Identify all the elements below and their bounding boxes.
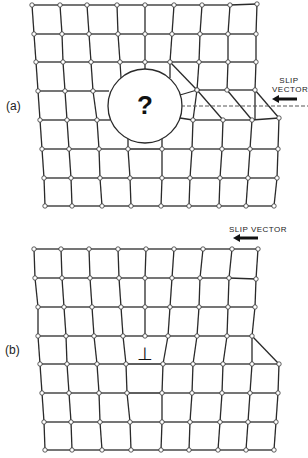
lattice-atom (63, 89, 67, 93)
lattice-bond (40, 120, 42, 149)
slip-label-line-1: SLIP (272, 76, 306, 85)
lattice-bond (219, 178, 220, 206)
lattice-atom (272, 204, 276, 208)
edge-dislocation-symbol: ⊥ (137, 343, 153, 365)
lattice-atom (30, 3, 34, 7)
lattice-atom (195, 334, 199, 338)
lattice-bond (121, 307, 123, 336)
lattice-bond (222, 364, 223, 393)
lattice-bond (227, 90, 252, 120)
lattice-atom (95, 118, 99, 122)
lattice-bond (227, 62, 228, 90)
lattice-atom (226, 60, 230, 64)
lattice-bond (255, 90, 279, 118)
lattice-bond (168, 307, 170, 336)
lattice-atom (32, 32, 36, 36)
lattice-atom (128, 420, 132, 424)
lattice-bond (276, 393, 278, 422)
lattice-bond (145, 249, 146, 278)
lattice-atom (67, 391, 71, 395)
lattice-atom (118, 60, 122, 64)
lattice-atom (33, 276, 37, 280)
lattice-atom (255, 2, 259, 6)
lattice-atom (38, 118, 42, 122)
lattice-atom (117, 276, 121, 280)
lattice-atom (272, 448, 276, 452)
lattice-bond (197, 90, 223, 120)
lattice-atom (218, 420, 222, 424)
lattice-atom (225, 334, 229, 338)
lattice-bond (40, 364, 42, 393)
lattice-atom (227, 276, 231, 280)
lattice-atom (172, 247, 176, 251)
lattice-bond (130, 178, 131, 206)
lattice-atom (36, 305, 40, 309)
lattice-bond (97, 364, 99, 393)
lattice-atom (274, 420, 278, 424)
lattice-bond (71, 422, 72, 450)
lattice-bond (252, 307, 255, 336)
lattice-bond (218, 422, 220, 450)
lattice-bond (61, 249, 62, 278)
lattice-atom (187, 204, 191, 208)
lattice-atom (166, 334, 170, 338)
lattice-bond (256, 4, 257, 34)
lattice-bond (274, 422, 276, 450)
lattice-atom (129, 448, 133, 452)
lattice-bond (62, 278, 64, 307)
lattice-atom (97, 391, 101, 395)
lattice-atom (60, 32, 64, 36)
lattice-bond (34, 34, 36, 62)
lattice-atom (250, 334, 254, 338)
panel-a-slip-vector-label: SLIP VECTOR (272, 76, 306, 94)
lattice-atom (221, 118, 225, 122)
lattice-bond (172, 249, 174, 278)
lattice-bond (118, 34, 120, 62)
lattice-atom (197, 60, 201, 64)
lattice-atom (65, 118, 69, 122)
panel-a-lattice (30, 2, 308, 208)
lattice-atom (190, 391, 194, 395)
lattice-atom (254, 60, 258, 64)
lattice-bond (38, 91, 40, 120)
slip-vector-arrowhead-icon (272, 95, 279, 103)
lattice-bond (230, 4, 257, 5)
lattice-atom (124, 362, 128, 366)
lattice-atom (62, 305, 66, 309)
lattice-atom (119, 305, 123, 309)
lattice-bond (90, 278, 92, 307)
lattice-bond (172, 5, 174, 34)
lattice-bond (123, 336, 126, 364)
lattice-bond (229, 249, 232, 278)
lattice-bond (197, 307, 199, 336)
lattice-bond (126, 364, 127, 393)
lattice-bond (229, 278, 256, 279)
lattice-atom (95, 362, 99, 366)
lattice-bond (94, 336, 97, 364)
lattice-atom (34, 60, 38, 64)
lattice-atom (220, 391, 224, 395)
lattice-atom (92, 334, 96, 338)
lattice-bond (197, 62, 199, 90)
lattice-bond (118, 249, 119, 278)
lattice-bond (93, 91, 97, 120)
lattice-bond (38, 336, 40, 364)
lattice-bond (222, 120, 223, 149)
lattice-atom (217, 204, 221, 208)
lattice-atom (161, 362, 165, 366)
lattice-atom (191, 362, 195, 366)
lattice-bond (220, 149, 222, 178)
lattice-atom (126, 147, 130, 151)
lattice-atom (168, 305, 172, 309)
lattice-atom (159, 204, 163, 208)
lattice-bond (99, 393, 100, 422)
lattice-bond (67, 120, 69, 149)
lattice-atom (98, 176, 102, 180)
lattice-bond (255, 62, 256, 90)
lattice-atom (42, 420, 46, 424)
lattice-atom (144, 247, 148, 251)
lattice-atom (129, 204, 133, 208)
lattice-bond (42, 149, 44, 178)
lattice-atom (100, 448, 104, 452)
lattice-atom (60, 276, 64, 280)
